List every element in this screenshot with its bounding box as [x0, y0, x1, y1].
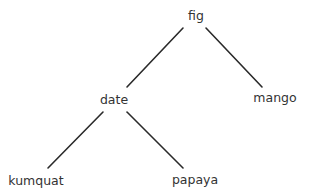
- edge-date-kumquat: [48, 112, 103, 168]
- node-mango: mango: [253, 92, 296, 105]
- node-fig: fig: [188, 10, 204, 23]
- edge-fig-date: [127, 28, 183, 87]
- edge-fig-mango: [206, 28, 262, 87]
- edge-date-papaya: [127, 112, 183, 168]
- node-kumquat: kumquat: [8, 175, 63, 188]
- node-papaya: papaya: [172, 174, 218, 187]
- node-date: date: [100, 94, 128, 107]
